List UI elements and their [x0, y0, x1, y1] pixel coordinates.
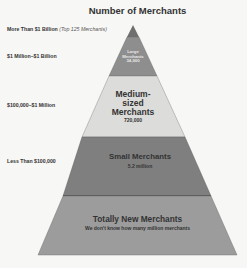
layer-label-large: Large Merchants 34,000 — [113, 50, 153, 64]
layer-count: 34,000 — [113, 59, 153, 64]
layer-name-line: Merchants — [103, 108, 163, 117]
layer-name: Totally New Merchants — [60, 215, 215, 224]
layer-count: 720,000 — [103, 118, 163, 123]
layer-count: We don't know how many million merchants — [60, 226, 215, 231]
layer-label-medium: Medium- sized Merchants 720,000 — [103, 90, 163, 123]
layer-label-new: Totally New Merchants We don't know how … — [60, 215, 215, 231]
layer-label-small: Small Merchants 5.2 million — [90, 153, 190, 169]
pyramid-apex — [127, 25, 139, 37]
layer-count: 5.2 million — [90, 164, 190, 169]
layer-name: Small Merchants — [90, 153, 190, 161]
